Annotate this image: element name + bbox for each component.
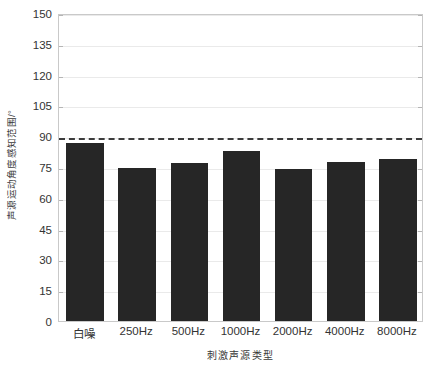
bar [223,151,261,321]
y-tick-label: 135 [33,39,52,51]
y-tick-label: 60 [39,193,52,205]
x-tick-label: 2000Hz [273,325,313,337]
y-axis-title-text: 声源运动角度感知范围/° [4,110,18,220]
x-tick-label: 4000Hz [325,325,365,337]
bar [379,159,417,321]
bar [171,163,209,321]
y-tick-label: 15 [39,285,52,297]
x-tick-label: 白噪 [73,325,95,341]
x-tick-label: 250Hz [120,325,153,337]
x-axis-tick-labels: 白噪250Hz500Hz1000Hz2000Hz4000Hz8000Hz [58,325,423,343]
y-tick-label: 75 [39,162,52,174]
bars-layer [59,15,422,321]
x-tick-label: 1000Hz [221,325,261,337]
bar [118,168,156,321]
y-tick-label: 45 [39,224,52,236]
y-tick-label: 120 [33,70,52,82]
y-tick-label: 150 [33,8,52,20]
plot-area [58,14,423,322]
y-axis-title: 声源运动角度感知范围/° [0,0,22,330]
bar [275,169,313,321]
y-tick-label: 0 [46,316,52,328]
x-tick-label: 8000Hz [377,325,417,337]
x-axis-title-text: 刺激声源类型 [207,350,274,361]
y-tick-label: 30 [39,254,52,266]
bar [66,143,104,321]
y-axis-tick-labels: 0153045607590105120135150 [22,0,56,369]
y-tick-label: 105 [33,100,52,112]
y-tick-label: 90 [39,131,52,143]
bar-chart-figure: 声源运动角度感知范围/° 0153045607590105120135150 白… [0,0,446,369]
x-axis-title: 刺激声源类型 [58,347,423,362]
x-tick-label: 500Hz [172,325,205,337]
bar [327,162,365,321]
